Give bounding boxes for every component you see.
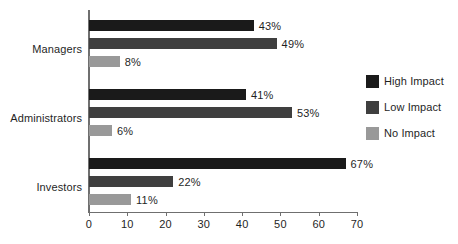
category-label: Administrators: [10, 112, 82, 124]
x-axis-tick-label: 20: [159, 218, 172, 230]
x-axis-tick: [242, 212, 243, 216]
bar-value-label: 22%: [178, 176, 201, 188]
x-axis-tick: [127, 212, 128, 216]
x-axis-tick-label: 10: [121, 218, 134, 230]
x-axis-tick: [204, 212, 205, 216]
x-axis-tick-label: 0: [86, 218, 92, 230]
bar-value-label: 6%: [117, 125, 133, 137]
x-axis-tick: [166, 212, 167, 216]
bar: [89, 89, 246, 100]
x-axis-tick-label: 50: [274, 218, 287, 230]
legend-swatch-icon: [366, 127, 379, 140]
bar: [89, 194, 131, 205]
bar: [89, 125, 112, 136]
x-axis-line: [88, 212, 358, 214]
bar-value-label: 41%: [251, 89, 274, 101]
x-axis-tick-label: 30: [198, 218, 211, 230]
x-axis-tick: [357, 212, 358, 216]
plot-area: 010203040506070 ManagersAdministratorsIn…: [0, 0, 458, 244]
bar-value-label: 11%: [136, 194, 158, 206]
x-axis-tick: [319, 212, 320, 216]
bar: [89, 158, 346, 169]
legend-item-label: No Impact: [384, 126, 435, 141]
bar: [89, 56, 120, 67]
category-label: Managers: [32, 43, 82, 55]
bar: [89, 107, 292, 118]
bar-value-label: 53%: [297, 107, 320, 119]
x-axis-tick-label: 70: [351, 218, 364, 230]
legend-swatch-icon: [366, 75, 379, 88]
grouped-bar-chart: 010203040506070 ManagersAdministratorsIn…: [0, 0, 458, 244]
bar-value-label: 67%: [351, 158, 374, 170]
legend-item-label: High Impact: [384, 74, 444, 89]
category-label: Investors: [36, 181, 82, 193]
x-axis-tick: [89, 212, 90, 216]
bar: [89, 176, 173, 187]
bar: [89, 20, 254, 31]
legend-item-label: Low Impact: [384, 100, 441, 115]
bar-value-label: 49%: [282, 38, 305, 50]
x-axis-tick: [280, 212, 281, 216]
bar-value-label: 8%: [125, 56, 141, 68]
x-axis-tick-label: 40: [236, 218, 249, 230]
x-axis-tick-label: 60: [312, 218, 325, 230]
bar: [89, 38, 277, 49]
bar-value-label: 43%: [259, 20, 282, 32]
legend-swatch-icon: [366, 101, 379, 114]
